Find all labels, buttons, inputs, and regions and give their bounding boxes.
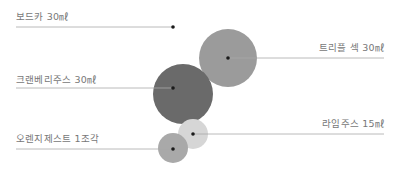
dot-lime-juice <box>191 132 195 136</box>
dot-triple-sec <box>226 56 230 60</box>
circle-cranberry-juice <box>153 64 213 124</box>
ingredient-circles <box>145 0 257 163</box>
dot-vodka <box>171 25 175 29</box>
dot-orange-zest <box>171 147 175 151</box>
label-vodka: 보드카 30㎖ <box>16 9 70 23</box>
ingredient-bubbles <box>0 0 393 173</box>
label-lime-juice: 라임주스 15㎖ <box>322 116 385 130</box>
label-triple-sec: 트리플 섹 30㎖ <box>319 40 385 54</box>
dot-cranberry-juice <box>171 86 175 90</box>
label-cranberry-juice: 크랜베리주스 30㎖ <box>16 72 97 86</box>
label-orange-zest: 오렌지제스트 1조각 <box>16 131 99 145</box>
cocktail-recipe-diagram: 보드카 30㎖ 트리플 섹 30㎖ 크랜베리주스 30㎖ 라임주스 15㎖ 오렌… <box>0 0 393 173</box>
